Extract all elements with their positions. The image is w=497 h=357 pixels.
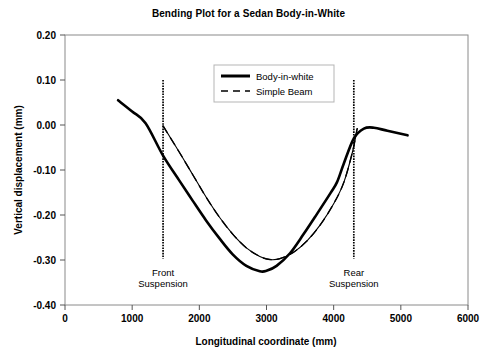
y-tick-label: -0.20 [33, 210, 56, 221]
chart-screenshot: Bending Plot for a Sedan Body-in-White 0… [0, 0, 497, 357]
front-suspension-label-line2: Suspension [138, 278, 188, 289]
x-axis-title: Longitudinal coordinate (mm) [195, 336, 336, 347]
y-axis-ticks: 0.200.100.00-0.10-0.20-0.30-0.40 [33, 30, 65, 311]
y-tick-label: 0.20 [37, 30, 57, 41]
front-suspension-label-line1: Front [152, 267, 175, 278]
x-axis-ticks: 0100020003000400050006000 [62, 305, 479, 324]
x-tick-label: 5000 [390, 313, 413, 324]
x-tick-label: 1000 [121, 313, 144, 324]
chart-legend: Body-in-white Simple Beam [214, 65, 334, 102]
y-tick-label: -0.10 [33, 165, 56, 176]
legend-label-simple-beam: Simple Beam [256, 86, 313, 97]
x-tick-label: 6000 [457, 313, 480, 324]
y-tick-label: -0.40 [33, 300, 56, 311]
y-tick-label: 0.10 [37, 75, 57, 86]
y-tick-label: -0.30 [33, 255, 56, 266]
x-tick-label: 3000 [255, 313, 278, 324]
bending-plot: 0.200.100.00-0.10-0.20-0.30-0.40 0100020… [0, 0, 497, 357]
x-tick-label: 0 [62, 313, 68, 324]
rear-suspension-label-line1: Rear [344, 267, 365, 278]
y-axis-title: Vertical displacement (mm) [13, 105, 24, 235]
y-tick-label: 0.00 [37, 120, 57, 131]
rear-suspension-label-line2: Suspension [329, 278, 379, 289]
x-tick-label: 4000 [323, 313, 346, 324]
legend-label-body-in-white: Body-in-white [256, 71, 314, 82]
x-tick-label: 2000 [188, 313, 211, 324]
